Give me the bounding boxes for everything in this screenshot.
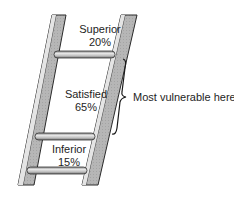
rung-middle xyxy=(35,133,95,140)
label-satisfied: Satisfied 65% xyxy=(56,88,116,114)
rung-top xyxy=(54,51,115,58)
rung-percent: 15% xyxy=(44,156,94,169)
callout-most-vulnerable: Most vulnerable here xyxy=(133,91,234,104)
rung-name: Inferior xyxy=(44,143,94,156)
rung-percent: 20% xyxy=(72,36,128,49)
rung-percent: 65% xyxy=(56,101,116,114)
label-inferior: Inferior 15% xyxy=(44,143,94,169)
label-superior: Superior 20% xyxy=(72,23,128,49)
rung-name: Superior xyxy=(72,23,128,36)
rung-name: Satisfied xyxy=(56,88,116,101)
